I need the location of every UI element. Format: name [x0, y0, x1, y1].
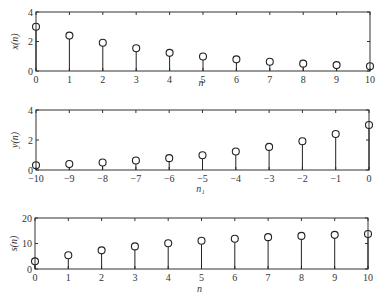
x-tick-label: 0: [33, 272, 38, 283]
stem-marker: [300, 60, 307, 67]
stem-marker: [131, 243, 138, 250]
x-tick-label: −3: [264, 173, 275, 184]
x-tick-label: 9: [334, 74, 339, 85]
stem-marker: [132, 157, 139, 164]
y-tick-label: 0: [28, 66, 33, 77]
x-tick-label: −1: [330, 173, 341, 184]
stem-marker: [98, 247, 105, 254]
stem-marker: [266, 58, 273, 65]
y-tick-label: 2: [28, 36, 33, 47]
stem-marker: [99, 39, 106, 46]
x-tick-label: 1: [66, 272, 71, 283]
y-tick-label: 10: [22, 238, 32, 249]
x-tick-label: 7: [267, 74, 272, 85]
y-axis-label: s(n): [8, 235, 20, 251]
stem-marker: [231, 235, 238, 242]
x-tick-label: −7: [131, 173, 142, 184]
y-axis-label: x(n): [9, 33, 21, 51]
x-tick-label: 2: [100, 74, 105, 85]
stem-marker: [200, 53, 207, 60]
x-tick-label: 0: [367, 173, 372, 184]
x-tick-label: 4: [166, 272, 171, 283]
x-tick-label: 9: [332, 272, 337, 283]
stem-marker: [199, 152, 206, 159]
stem-plot-figure: 012345678910024x(n)n−10−9−8−7−6−5−4−3−2−…: [0, 0, 378, 303]
y-tick-label: 4: [28, 105, 33, 116]
y-tick-label: 20: [22, 213, 32, 224]
stem-marker: [332, 131, 339, 138]
x-tick-label: 10: [365, 74, 375, 85]
stem-marker: [66, 161, 73, 168]
x-tick-label: 0: [34, 74, 39, 85]
y-axis-label: y(n): [9, 131, 21, 149]
x-axis-label: n₁: [196, 183, 204, 194]
subplot-2: −10−9−8−7−6−5−4−3−2−10024y(n)n₁: [9, 105, 373, 195]
stem-marker: [233, 56, 240, 63]
x-tick-label: −8: [97, 173, 108, 184]
x-tick-label: 6: [232, 272, 237, 283]
x-tick-label: 4: [167, 74, 172, 85]
x-tick-label: −9: [64, 173, 75, 184]
y-tick-label: 2: [28, 135, 33, 146]
x-tick-label: 8: [301, 74, 306, 85]
x-tick-label: 1: [67, 74, 72, 85]
x-tick-label: −4: [230, 173, 241, 184]
stem-marker: [133, 45, 140, 52]
stem-marker: [166, 155, 173, 162]
stem-marker: [166, 49, 173, 56]
stem-marker: [66, 32, 73, 39]
subplot-3: 01234567891001020s(n)n: [8, 213, 373, 295]
y-tick-label: 0: [27, 264, 32, 275]
x-tick-label: 6: [234, 74, 239, 85]
stem-marker: [299, 138, 306, 145]
x-tick-label: 7: [266, 272, 271, 283]
x-tick-label: 10: [363, 272, 373, 283]
stem-marker: [266, 143, 273, 150]
stem-marker: [165, 240, 172, 247]
x-tick-label: 8: [299, 272, 304, 283]
y-tick-label: 4: [28, 7, 33, 18]
stem-marker: [333, 62, 340, 69]
x-tick-label: 3: [132, 272, 137, 283]
x-tick-label: 2: [99, 272, 104, 283]
x-axis-label: n: [197, 283, 202, 294]
subplot-1: 012345678910024x(n)n: [9, 7, 375, 89]
stem-marker: [65, 252, 72, 259]
x-axis-label: n: [199, 77, 204, 88]
x-tick-label: 5: [199, 272, 204, 283]
stem-marker: [198, 237, 205, 244]
x-tick-label: −6: [164, 173, 175, 184]
stem-marker: [232, 148, 239, 155]
stem-marker: [99, 159, 106, 166]
stem-marker: [331, 231, 338, 238]
x-tick-label: −2: [297, 173, 308, 184]
x-tick-label: 3: [134, 74, 139, 85]
stem-marker: [298, 232, 305, 239]
stem-marker: [265, 234, 272, 241]
